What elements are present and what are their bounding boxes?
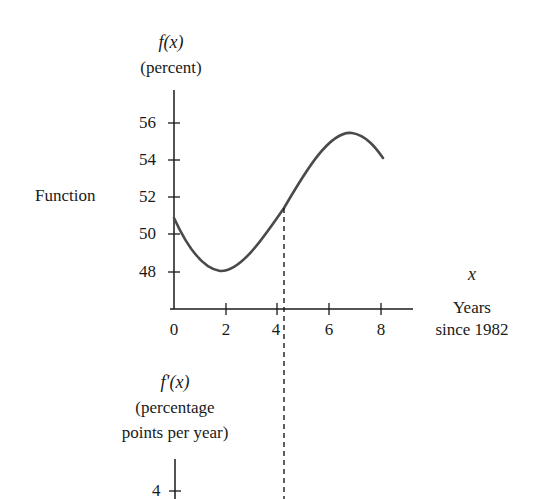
- x-tick-label: 0: [170, 320, 179, 340]
- y-tick-label: 48: [139, 262, 156, 282]
- y-tick-label: 56: [139, 113, 156, 133]
- y-axis-units: (percent): [140, 58, 201, 78]
- function-curve: [174, 133, 383, 271]
- y-tick-label: 50: [139, 224, 156, 244]
- derivative-y-units-line1: (percentage: [135, 398, 214, 418]
- x-tick-label: 4: [272, 320, 281, 340]
- y-tick-label: 52: [139, 187, 156, 207]
- x-axis-units-line2: since 1982: [435, 320, 508, 340]
- x-axis-label: x: [468, 264, 476, 284]
- y-tick-label: 54: [139, 150, 156, 170]
- chart-canvas: [0, 0, 551, 499]
- x-tick-label: 8: [377, 320, 386, 340]
- derivative-y-axis-label: f'(x): [161, 372, 190, 392]
- x-tick-label: 2: [222, 320, 231, 340]
- x-tick-label: 6: [325, 320, 334, 340]
- function-label: Function: [35, 186, 95, 206]
- y-axis-label: f(x): [159, 32, 184, 52]
- x-axis-units-line1: Years: [453, 298, 491, 318]
- derivative-y-tick-label: 4: [152, 481, 161, 499]
- derivative-y-units-line2: points per year): [122, 423, 229, 443]
